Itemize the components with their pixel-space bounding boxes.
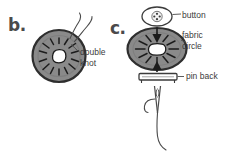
callout-pin-back: pin back [186,71,218,82]
gather-center-c [149,44,166,56]
gather-center-b [53,50,66,63]
needle-thread [157,113,166,150]
instruction-figure: b. c. double knot button fabric circle p… [0,0,229,155]
pin-back-shape [139,74,177,84]
callout-button: button [182,10,206,21]
needle-thread-loop [144,99,155,113]
leader-line-button [173,14,182,15]
panel-c-artwork [128,7,187,150]
callout-double-knot: double knot [80,47,106,68]
panel-label-c: c. [110,20,126,37]
panel-label-b: b. [8,17,26,34]
callout-fabric-circle: fabric circle [182,30,203,51]
needle-shape [155,86,161,113]
